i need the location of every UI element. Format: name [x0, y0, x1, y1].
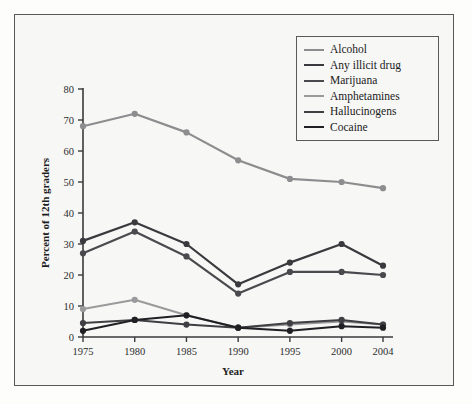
data-point	[132, 229, 138, 235]
data-point	[80, 320, 86, 326]
data-point	[183, 253, 189, 259]
data-point	[80, 250, 86, 256]
legend-item: Amphetamines	[304, 89, 432, 105]
data-point	[235, 157, 241, 163]
data-point	[132, 111, 138, 117]
legend-swatch-icon	[304, 95, 324, 97]
y-tick-label: 80	[64, 84, 75, 95]
series-line	[83, 232, 383, 294]
legend-label: Cocaine	[330, 120, 368, 136]
legend-swatch-icon	[304, 126, 324, 128]
data-point	[80, 238, 86, 244]
legend-swatch-icon	[304, 111, 324, 113]
y-tick-label: 40	[64, 208, 75, 219]
legend-swatch-icon	[304, 49, 324, 51]
legend-item: Hallucinogens	[304, 104, 432, 120]
legend-swatch-icon	[304, 64, 324, 66]
x-tick-label: 1975	[73, 346, 94, 357]
data-point	[380, 325, 386, 331]
y-axis-title: Percent of 12th graders	[39, 157, 51, 268]
x-tick-label: 1990	[228, 346, 249, 357]
figure-page: 0102030405060708019751980198519901995200…	[0, 0, 472, 404]
chart-legend: AlcoholAny illicit drugMarijuanaAmphetam…	[296, 36, 439, 141]
data-point	[132, 219, 138, 225]
data-point	[380, 272, 386, 278]
data-point	[287, 328, 293, 334]
series-line	[83, 315, 383, 331]
legend-item: Marijuana	[304, 73, 432, 89]
data-point	[287, 260, 293, 266]
data-point	[80, 123, 86, 129]
x-axis-title: Year	[222, 365, 244, 377]
y-tick-label: 30	[64, 239, 75, 250]
legend-item: Alcohol	[304, 42, 432, 58]
data-point	[80, 328, 86, 334]
y-tick-label: 0	[69, 332, 74, 343]
x-tick-label: 1985	[176, 346, 197, 357]
legend-item: Cocaine	[304, 120, 432, 136]
data-point	[339, 241, 345, 247]
x-tick-label: 1995	[279, 346, 300, 357]
data-point	[183, 129, 189, 135]
legend-label: Amphetamines	[330, 89, 400, 105]
data-point	[132, 317, 138, 323]
legend-swatch-icon	[304, 80, 324, 82]
series-layer	[80, 111, 386, 334]
data-point	[132, 297, 138, 303]
data-point	[183, 312, 189, 318]
series-line	[83, 300, 383, 328]
series-marijuana	[80, 229, 386, 297]
legend-label: Marijuana	[330, 73, 377, 89]
data-point	[287, 176, 293, 182]
data-point	[183, 241, 189, 247]
x-tick-label: 1980	[124, 346, 145, 357]
data-point	[183, 322, 189, 328]
data-point	[287, 269, 293, 275]
data-point	[339, 317, 345, 323]
series-line	[83, 222, 383, 284]
data-point	[80, 306, 86, 312]
data-point	[339, 179, 345, 185]
y-tick-label: 70	[64, 115, 75, 126]
x-tick-label: 2004	[373, 346, 395, 357]
data-point	[339, 269, 345, 275]
data-point	[339, 323, 345, 329]
legend-label: Alcohol	[330, 42, 367, 58]
legend-item: Any illicit drug	[304, 58, 432, 74]
y-tick-label: 60	[64, 146, 75, 157]
data-point	[380, 185, 386, 191]
data-point	[287, 320, 293, 326]
legend-label: Any illicit drug	[330, 58, 401, 74]
y-tick-label: 50	[64, 177, 75, 188]
data-point	[235, 281, 241, 287]
data-point	[235, 291, 241, 297]
y-tick-label: 10	[64, 301, 75, 312]
x-tick-label: 2000	[331, 346, 352, 357]
y-tick-label: 20	[64, 270, 75, 281]
legend-label: Hallucinogens	[330, 104, 396, 120]
data-point	[380, 263, 386, 269]
data-point	[235, 325, 241, 331]
series-any-illicit-drug	[80, 219, 386, 287]
